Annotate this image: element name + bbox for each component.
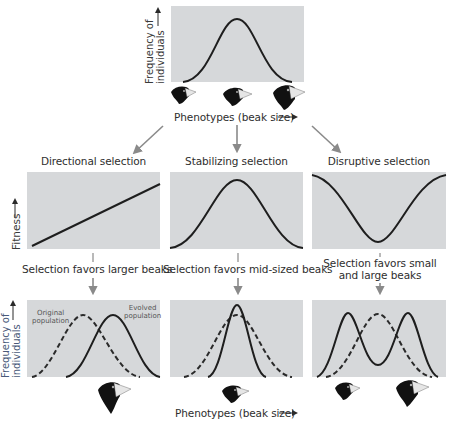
fitness-axis-label: Fitness xyxy=(11,214,22,250)
evolved-population-curve xyxy=(66,315,160,377)
large-beak-finch-icon xyxy=(396,380,429,407)
directional-title: Directional selection xyxy=(27,155,160,167)
original-label-line2: population xyxy=(32,317,69,325)
y-axis-label-line1: Frequency of xyxy=(145,20,156,84)
evolved-label-line2: population xyxy=(124,312,161,320)
y-axis-label-line2: individuals xyxy=(156,20,167,84)
stabilizing-title: Stabilizing selection xyxy=(170,155,303,167)
stabilizing-caption: Selection favors mid-sized beaks xyxy=(163,263,313,275)
disruptive-caption-line2: and large beaks xyxy=(312,269,448,281)
stabilizing-result-panel xyxy=(170,300,303,377)
top-y-axis-label: Frequency of individuals xyxy=(145,20,166,84)
small-beak-finch-icon xyxy=(335,383,360,400)
disruptive-result-panel xyxy=(312,300,446,377)
directional-title-text: Directional selection xyxy=(41,155,146,167)
directional-caption: Selection favors larger beaks xyxy=(22,263,165,275)
disruptive-fitness-panel xyxy=(312,172,446,249)
disruptive-caption-line1: Selection favors small xyxy=(312,257,448,269)
large-beak-finch-icon xyxy=(273,85,305,110)
bottom-x-axis-label-text: Phenotypes (beak size) xyxy=(175,407,295,419)
original-label-line1: Original xyxy=(32,309,69,317)
arrow-to-disruptive-icon xyxy=(312,126,339,151)
evolved-population-label: Evolved population xyxy=(124,304,161,320)
original-population-label: Original population xyxy=(32,309,69,325)
disruptive-caption: Selection favors small and large beaks xyxy=(312,257,448,281)
original-distribution-panel xyxy=(171,6,304,82)
stabilizing-caption-text: Selection favors mid-sized beaks xyxy=(163,263,333,275)
bottom-y-label-line1: Frequency of xyxy=(1,314,12,378)
original-population-curve xyxy=(184,315,292,377)
disruptive-title-text: Disruptive selection xyxy=(328,155,430,167)
large-beak-finch-icon xyxy=(98,382,131,414)
bottom-y-axis-label: Frequency of individuals xyxy=(1,314,22,378)
directional-result-panel: Original population Evolved population xyxy=(27,300,160,377)
top-x-axis-label: Phenotypes (beak size) xyxy=(174,111,294,123)
bottom-x-axis-label: Phenotypes (beak size) xyxy=(175,407,295,419)
small-beak-finch-icon xyxy=(171,87,196,104)
directional-fitness-panel xyxy=(27,172,160,249)
medium-beak-finch-icon xyxy=(222,386,249,403)
normal-curve xyxy=(171,6,304,82)
stabilizing-distributions xyxy=(170,300,303,377)
fitness-label-text: Fitness xyxy=(10,214,22,250)
disruptive-distributions xyxy=(312,300,446,377)
evolved-population-curve xyxy=(317,313,438,377)
increasing-fitness-line xyxy=(27,172,160,249)
arrow-to-directional-icon xyxy=(135,126,163,152)
stabilizing-title-text: Stabilizing selection xyxy=(185,155,288,167)
disruptive-title: Disruptive selection xyxy=(312,155,446,167)
stabilizing-fitness-panel xyxy=(170,172,303,249)
bottom-y-label-line2: individuals xyxy=(12,314,23,378)
bell-fitness-curve xyxy=(170,172,303,249)
x-axis-label-text: Phenotypes (beak size) xyxy=(174,111,294,123)
medium-beak-finch-icon xyxy=(223,88,252,106)
u-shaped-fitness-curve xyxy=(312,172,446,249)
evolved-label-line1: Evolved xyxy=(124,304,161,312)
directional-caption-text: Selection favors larger beaks xyxy=(22,263,172,275)
